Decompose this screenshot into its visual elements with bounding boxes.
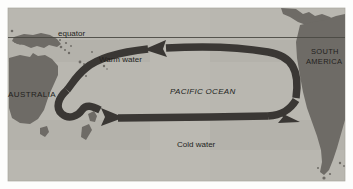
cold-water-flow-path [118,116,268,118]
south-america-label-line1: SOUTH [311,47,339,56]
australia-label: AUSTRALIA [8,90,56,99]
cold-water-label: Cold water [177,140,216,149]
equator-label: equator [58,29,85,38]
map-canvas: equator Warm water PACIFIC OCEAN Cold wa… [0,0,353,189]
south-america-label-line2: AMERICA [306,57,342,66]
pacific-ocean-label: PACIFIC OCEAN [170,87,236,96]
warm-water-label: Warm water [99,55,142,64]
pacific-current-diagram: equator Warm water PACIFIC OCEAN Cold wa… [0,0,353,189]
